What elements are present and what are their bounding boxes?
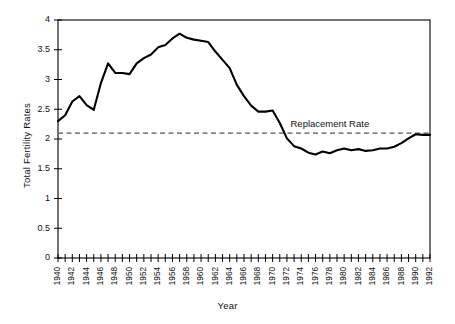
x-tick-label: 1964 bbox=[225, 267, 234, 286]
y-axis-title: Total Fertility Rates bbox=[21, 76, 32, 216]
x-axis-title: Year bbox=[0, 300, 455, 311]
x-tick-label: 1976 bbox=[311, 267, 320, 286]
chart-canvas: 00.511.522.533.54 Replacement Rate 19401… bbox=[0, 0, 455, 324]
x-tick-label: 1966 bbox=[239, 267, 248, 286]
x-tick-label: 1944 bbox=[82, 267, 91, 286]
x-tick-label: 1942 bbox=[67, 267, 76, 286]
x-tick-label: 1968 bbox=[253, 267, 262, 286]
x-tick-label: 1982 bbox=[354, 267, 363, 286]
y-tick-label: 2.5 bbox=[37, 104, 50, 114]
x-tick-label: 1948 bbox=[110, 267, 119, 286]
x-tick-label: 1954 bbox=[153, 267, 162, 286]
x-tick-label: 1980 bbox=[339, 267, 348, 286]
y-tick-label: 3 bbox=[45, 74, 50, 84]
x-tick-label: 1950 bbox=[125, 267, 134, 286]
x-tick-label: 1992 bbox=[425, 267, 434, 286]
y-tick-label: 2 bbox=[45, 133, 50, 143]
x-tick-label: 1984 bbox=[368, 267, 377, 286]
x-tick-label: 1962 bbox=[211, 267, 220, 286]
x-tick-label: 1946 bbox=[96, 267, 105, 286]
fertility-rate-line bbox=[58, 34, 430, 155]
x-tick-label: 1972 bbox=[282, 267, 291, 286]
x-tick-label: 1958 bbox=[182, 267, 191, 286]
x-tick-label: 1990 bbox=[411, 267, 420, 286]
x-tick-label: 1956 bbox=[168, 267, 177, 286]
x-tick-label: 1940 bbox=[53, 267, 62, 286]
x-tick-label: 1978 bbox=[325, 267, 334, 286]
replacement-rate-label: Replacement Rate bbox=[291, 118, 370, 129]
plot-frame bbox=[58, 20, 430, 258]
y-tick-label: 4 bbox=[45, 14, 50, 24]
x-tick-label: 1986 bbox=[382, 267, 391, 286]
x-tick-label: 1988 bbox=[397, 267, 406, 286]
x-tick-label: 1952 bbox=[139, 267, 148, 286]
y-tick-label: 1 bbox=[45, 193, 50, 203]
x-tick-label: 1970 bbox=[268, 267, 277, 286]
y-tick-label: 1.5 bbox=[37, 163, 50, 173]
fertility-rate-chart-figure: 00.511.522.533.54 Replacement Rate 19401… bbox=[0, 0, 455, 324]
x-tick-label: 1960 bbox=[196, 267, 205, 286]
x-tick-label: 1974 bbox=[296, 267, 305, 286]
y-tick-label: 0.5 bbox=[37, 223, 50, 233]
y-tick-label: 0 bbox=[45, 252, 50, 262]
y-tick-label: 3.5 bbox=[37, 44, 50, 54]
x-axis-tick-labels: 1940194219441946194819501952195419561958… bbox=[53, 267, 434, 286]
